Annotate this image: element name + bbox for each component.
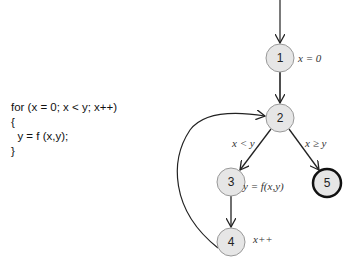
edge-2-3: [240, 129, 271, 170]
node-label: 3: [228, 175, 235, 189]
edge-label-x-ge-y: x ≥ y: [304, 137, 326, 149]
node-label: 5: [324, 176, 331, 190]
node-label: 4: [228, 235, 235, 249]
node-3: 3: [217, 168, 245, 196]
edge-label-x-lt-y: x < y: [231, 137, 255, 149]
node-annotation-4: x++: [252, 233, 273, 245]
node-label: 1: [277, 51, 284, 65]
node-5-final: 5: [313, 169, 341, 197]
node-annotation-1: x = 0: [297, 52, 322, 64]
node-annotation-3: y = f(x,y): [242, 180, 284, 193]
node-1: 1: [266, 44, 294, 72]
node-4: 4: [217, 228, 245, 256]
node-label: 2: [277, 111, 284, 125]
control-flow-graph: x < y x ≥ y 1 x = 0 2 3 y = f(x,y) 4 x++…: [0, 0, 355, 266]
node-2: 2: [266, 104, 294, 132]
edge-2-5: [289, 129, 319, 170]
